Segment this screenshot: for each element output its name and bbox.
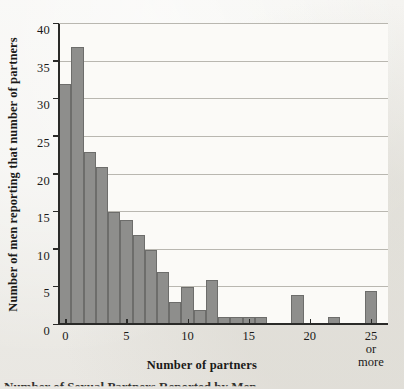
y-tick-mark xyxy=(53,211,59,212)
y-tick-mark xyxy=(53,135,59,136)
caption-fragment: Number of Sexual Partners Reported by Me… xyxy=(4,379,257,389)
y-tick-mark xyxy=(53,286,59,287)
bar xyxy=(84,152,96,325)
x-tick-label: 20 xyxy=(304,330,317,343)
bar xyxy=(133,235,145,325)
y-tick-mark xyxy=(53,173,59,174)
x-tick-mark xyxy=(249,319,250,325)
x-tick-label: 15 xyxy=(242,330,255,343)
y-axis-title: Number of men reporting that number of p… xyxy=(6,0,24,24)
bar xyxy=(157,272,169,325)
y-tick-mark xyxy=(53,324,59,325)
x-tick-mark xyxy=(126,319,127,325)
gridline xyxy=(58,61,388,62)
y-tick-mark xyxy=(53,98,59,99)
gridline xyxy=(58,23,388,24)
x-tick-mark xyxy=(371,319,372,325)
bar xyxy=(96,167,108,325)
plot-area: 0510152025303540 0510152025 or more xyxy=(58,24,388,325)
bar xyxy=(169,302,181,325)
bar xyxy=(108,212,120,325)
x-tick-mark xyxy=(188,319,189,325)
x-tick-label: 0 xyxy=(62,330,68,343)
y-axis-line xyxy=(58,24,60,325)
y-axis-title-text: Number of men reporting that number of p… xyxy=(6,24,21,325)
bar xyxy=(206,280,218,325)
histogram-figure: 0510152025303540 0510152025 or more Numb… xyxy=(0,0,404,389)
gridline xyxy=(58,136,388,137)
bar xyxy=(59,84,71,325)
y-tick-mark xyxy=(53,60,59,61)
x-axis-title: Number of partners xyxy=(0,358,404,373)
bar xyxy=(145,250,157,325)
bar xyxy=(120,220,132,325)
x-tick-mark xyxy=(310,319,311,325)
bar xyxy=(71,47,83,325)
y-tick-mark xyxy=(53,248,59,249)
x-tick-label: 5 xyxy=(123,330,129,343)
x-tick-label: 10 xyxy=(181,330,194,343)
x-axis-line xyxy=(58,323,388,325)
y-tick-mark xyxy=(53,23,59,24)
gridline xyxy=(58,98,388,99)
bar xyxy=(291,295,303,325)
x-tick-mark xyxy=(65,319,66,325)
